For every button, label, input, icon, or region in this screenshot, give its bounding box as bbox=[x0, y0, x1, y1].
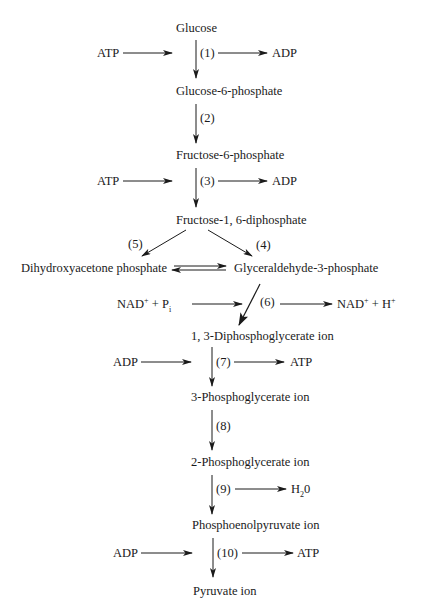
arrow-step5 bbox=[142, 230, 186, 256]
step1-label: (1) bbox=[200, 46, 215, 60]
compound-glucose: Glucose bbox=[176, 21, 217, 35]
compound-3-phosphoglycerate: 3-Phosphoglycerate ion bbox=[191, 390, 309, 404]
step6-input: NAD+ + Pi bbox=[117, 297, 171, 311]
step3-input: ATP bbox=[97, 174, 119, 188]
step3-label: (3) bbox=[200, 174, 215, 188]
step6-label: (6) bbox=[260, 295, 275, 309]
compound-2-phosphoglycerate: 2-Phosphoglycerate ion bbox=[191, 455, 309, 469]
compound-pyruvate: Pyruvate ion bbox=[193, 584, 257, 598]
step6-output: NAD+ + H+ bbox=[337, 297, 395, 311]
step10-output: ATP bbox=[297, 546, 319, 560]
arrow-step4 bbox=[208, 230, 252, 256]
step5-label: (5) bbox=[128, 237, 143, 251]
step3-output: ADP bbox=[272, 174, 297, 188]
compound-dihydroxyacetone-phosphate: Dihydroxyacetone phosphate bbox=[21, 261, 167, 275]
compound-glucose-6-phosphate: Glucose-6-phosphate bbox=[176, 84, 282, 98]
step2-label: (2) bbox=[200, 111, 215, 125]
step6-input-nad: NAD bbox=[117, 297, 144, 311]
step9-label: (9) bbox=[216, 482, 231, 496]
compound-fructose-6-phosphate: Fructose-6-phosphate bbox=[176, 148, 284, 162]
step7-input: ADP bbox=[113, 355, 138, 369]
arrow-step6-main bbox=[239, 284, 260, 325]
compound-1-3-diphosphoglycerate: 1, 3-Diphosphoglycerate ion bbox=[191, 329, 334, 343]
step10-input: ADP bbox=[113, 546, 138, 560]
step9-output: H20 bbox=[291, 482, 310, 496]
step6-output-nad: NAD bbox=[337, 297, 364, 311]
compound-phosphoenolpyruvate: Phosphoenolpyruvate ion bbox=[192, 518, 319, 532]
step6-output-h-charge: + bbox=[391, 296, 396, 305]
step1-output: ADP bbox=[272, 46, 297, 60]
step9-output-h: H bbox=[291, 482, 300, 496]
step10-label: (10) bbox=[217, 546, 238, 560]
step6-input-plus-p: + P bbox=[149, 297, 169, 311]
step7-label: (7) bbox=[216, 355, 231, 369]
step1-input: ATP bbox=[97, 46, 119, 60]
step8-label: (8) bbox=[216, 419, 231, 433]
compound-fructose-1-6-diphosphate: Fructose-1, 6-diphosphate bbox=[176, 213, 307, 227]
step7-output: ATP bbox=[290, 355, 312, 369]
step6-input-p-subscript: i bbox=[169, 305, 171, 314]
step4-label: (4) bbox=[256, 238, 271, 252]
compound-glyceraldehyde-3-phosphate: Glyceraldehyde-3-phosphate bbox=[234, 261, 378, 275]
step9-output-tail: 0 bbox=[304, 482, 310, 496]
glycolysis-diagram: Glucose Glucose-6-phosphate Fructose-6-p… bbox=[0, 0, 427, 605]
step6-output-plus-h: + H bbox=[369, 297, 391, 311]
